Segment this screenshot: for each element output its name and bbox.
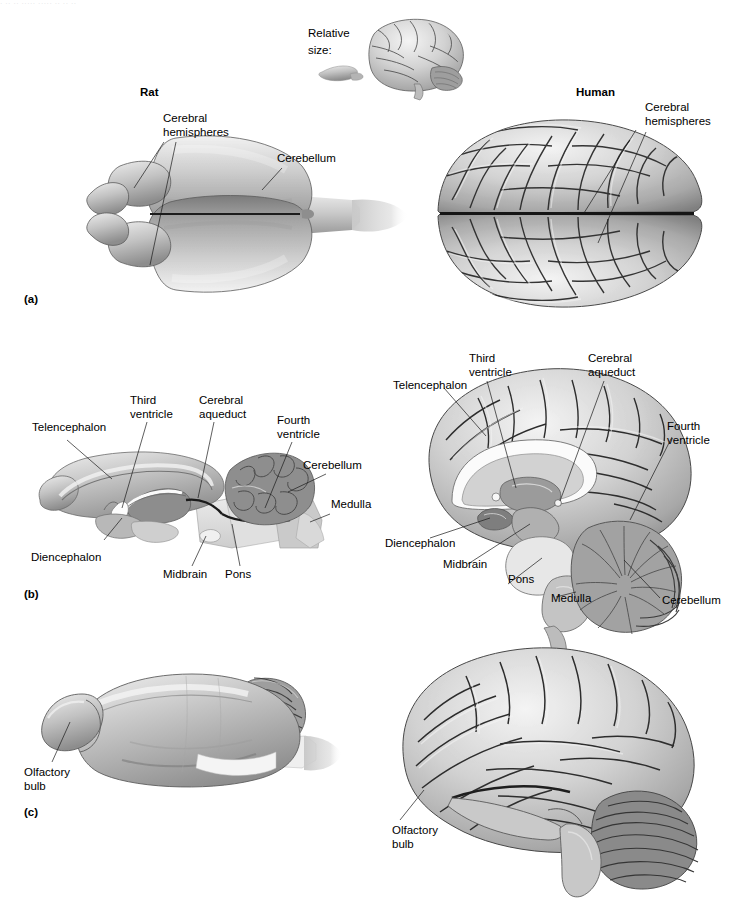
- human-brain-dorsal: [438, 120, 702, 307]
- leader-human-telencephalon: [444, 388, 486, 436]
- label-human-cerebellum-b: Cerebellum: [662, 594, 721, 608]
- label-rat-cerebral-hemispheres-line2: hemispheres: [163, 126, 229, 140]
- human-cerebellum-lateral: [592, 791, 699, 889]
- label-human-midbrain: Midbrain: [443, 558, 487, 572]
- relative-size-label-line2: size:: [308, 44, 332, 58]
- panel-label-a: (a): [24, 293, 38, 305]
- cropped-header-text: · ·· ·· ····· ····· ·· ·· ··: [0, 0, 736, 9]
- label-rat-fourth-ventricle-line1: Fourth: [277, 414, 310, 428]
- leader-rat-third-ventricle: [122, 422, 147, 508]
- leader-rat-olfactory-bulb: [52, 722, 70, 762]
- rat-olfactory-bulb-tip-upper: [87, 183, 129, 215]
- leader-rat-cerebellum-b: [288, 474, 326, 492]
- human-temporal-lobe: [448, 798, 563, 840]
- label-rat-olfactory-bulb-line2: bulb: [24, 780, 46, 794]
- label-human-diencephalon: Diencephalon: [385, 537, 455, 551]
- leader-human-olfactory-bulb: [400, 790, 424, 820]
- label-human-cerebral-hemispheres-line2: hemispheres: [645, 115, 711, 129]
- rat-cerebellum-sagittal: [225, 453, 314, 525]
- label-human-fourth-ventricle-line2: ventricle: [667, 434, 710, 448]
- rat-medulla-region: [272, 492, 322, 548]
- leader-rat-cerebral-hemispheres-1: [134, 142, 164, 188]
- leader-human-third-ventricle: [487, 381, 516, 488]
- label-rat-olfactory-bulb-line1: Olfactory: [24, 766, 70, 780]
- human-lateral-ventricle-region: [462, 454, 583, 506]
- human-brainstem-lateral: [560, 824, 601, 897]
- human-lateral-sulcus: [452, 786, 570, 798]
- rat-olfactory-bulb-sagittal: [39, 476, 78, 510]
- human-brain-lateral: [403, 648, 698, 897]
- leader-rat-cerebellum-a: [262, 168, 282, 190]
- rat-brain-dorsal: [87, 136, 408, 292]
- label-human-cerebral-aqueduct-line2: aqueduct: [588, 366, 635, 380]
- label-human-third-ventricle-line1: Third: [469, 352, 495, 366]
- label-rat-cerebral-aqueduct-line1: Cerebral: [199, 394, 243, 408]
- label-rat-telencephalon: Telencephalon: [32, 421, 106, 435]
- column-header-rat: Rat: [140, 86, 159, 100]
- rat-brain-lateral: [42, 674, 342, 787]
- label-rat-medulla: Medulla: [331, 498, 371, 512]
- rat-telencephalon: [47, 452, 224, 518]
- human-cerebrum-lateral: [403, 648, 694, 853]
- label-rat-third-ventricle-line1: Third: [130, 394, 156, 408]
- label-rat-pons: Pons: [225, 568, 251, 582]
- label-rat-cerebellum-a: Cerebellum: [277, 152, 336, 166]
- rat-olfactory-bulb-upper: [108, 161, 170, 206]
- human-thalamus-third-ventricle: [500, 477, 561, 512]
- label-human-telencephalon: Telencephalon: [393, 379, 467, 393]
- relative-size-human-brain-thumb: [369, 19, 464, 100]
- human-diencephalon: [478, 509, 513, 530]
- rat-pons-region: [226, 492, 282, 548]
- label-rat-cerebellum-b: Cerebellum: [303, 459, 362, 473]
- label-rat-third-ventricle-line2: ventricle: [130, 408, 173, 422]
- label-rat-cerebral-aqueduct-line2: aqueduct: [199, 408, 246, 422]
- label-human-pons: Pons: [508, 573, 534, 587]
- rat-brain-sagittal: [39, 452, 324, 548]
- leader-rat-medulla: [310, 514, 330, 522]
- rat-midbrain-region: [196, 498, 262, 548]
- leader-human-cerebellum-b: [624, 560, 660, 598]
- relative-size-label-line1: Relative: [308, 27, 350, 41]
- rat-diencephalon: [96, 514, 145, 538]
- label-rat-midbrain: Midbrain: [163, 568, 207, 582]
- human-third-ventricle-marker: [492, 493, 500, 501]
- leader-rat-telencephalon: [67, 440, 112, 479]
- leader-rat-midbrain: [192, 536, 206, 566]
- leader-rat-fourth-ventricle: [265, 442, 292, 508]
- human-hemisphere-upper: [438, 120, 702, 213]
- leader-human-fourth-ventricle: [630, 437, 672, 520]
- human-cerebrum-medial: [429, 369, 691, 553]
- human-corpus-callosum: [452, 440, 597, 510]
- leader-rat-cerebral-aqueduct: [198, 422, 214, 498]
- label-rat-cerebral-hemispheres-line1: Cerebral: [163, 112, 207, 126]
- panel-label-c: (c): [24, 806, 38, 818]
- label-human-cerebral-hemispheres-line1: Cerebral: [645, 101, 689, 115]
- panel-label-b: (b): [24, 588, 39, 600]
- rat-cerebellum-dorsal: [227, 172, 309, 252]
- leader-lines: [52, 130, 672, 820]
- rat-cerebral-hemisphere-lower: [147, 196, 311, 293]
- human-hemisphere-lower: [438, 214, 702, 307]
- rat-cerebral-hemisphere-upper: [147, 136, 311, 233]
- label-human-third-ventricle-line2: ventricle: [469, 366, 512, 380]
- rat-cerebellum-lateral: [234, 678, 306, 749]
- figure-brain-comparison: · ·· ·· ····· ····· ·· ·· ··: [0, 0, 736, 904]
- label-rat-diencephalon: Diencephalon: [31, 551, 101, 565]
- rat-fourth-ventricle: [258, 507, 300, 510]
- label-human-olfactory-bulb-line2: bulb: [392, 838, 414, 852]
- leader-human-cerebral-hemispheres-2: [598, 132, 646, 243]
- label-human-olfactory-bulb-line1: Olfactory: [392, 824, 438, 838]
- rat-third-ventricle: [111, 502, 128, 521]
- label-human-medulla: Medulla: [551, 592, 591, 606]
- brain-artwork: [0, 0, 736, 904]
- leader-human-cerebral-hemispheres-1: [584, 130, 636, 213]
- rat-hippocampus: [127, 489, 190, 524]
- leader-human-cerebral-aqueduct: [560, 381, 604, 501]
- rat-olfactory-bulb-tip-lower: [87, 213, 129, 245]
- leader-rat-cerebral-hemispheres-2: [150, 142, 176, 265]
- leader-rat-pons: [232, 524, 240, 566]
- human-cerebellum-sagittal: [571, 521, 681, 634]
- human-midbrain: [512, 508, 559, 544]
- rat-olfactory-bulb-lower: [108, 222, 170, 267]
- rat-cerebral-aqueduct: [186, 500, 222, 514]
